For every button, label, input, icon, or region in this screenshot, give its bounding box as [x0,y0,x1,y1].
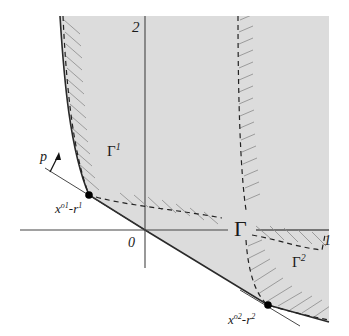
diagram-figure: 2 Γ1 p xo1-r1 0 Γ 1 Γ2 xo2-r2 [0,0,349,336]
axis-label-2: 2 [132,20,140,35]
gamma1-sup: 1 [116,141,121,152]
diagram-canvas [0,0,349,336]
gamma2-label: Γ2 [292,253,306,270]
gamma-label: Γ [234,218,247,240]
point2-x-sup: o2 [234,312,242,321]
gamma2-base: Γ [292,254,301,270]
p-arrow-icon [50,152,61,172]
point-x-o1-r1 [85,191,93,199]
p-label: p [40,150,47,164]
point1-r: -r [69,201,78,216]
point2-r-sup: 2 [251,312,255,321]
gamma-region [60,16,329,322]
gamma1-base: Γ [107,143,116,159]
gamma2-sup: 2 [301,252,306,263]
point1-r-sup: 1 [78,201,82,210]
origin-label: 0 [128,236,135,250]
point2-r: -r [242,312,251,327]
point1-x-sup: o1 [61,201,69,210]
point-x-o2-r2 [264,301,272,309]
gamma1-label: Γ1 [107,142,121,159]
point1-label: xo1-r1 [55,202,82,215]
point2-label: xo2-r2 [228,313,255,326]
axis-label-1: 1 [324,234,331,248]
